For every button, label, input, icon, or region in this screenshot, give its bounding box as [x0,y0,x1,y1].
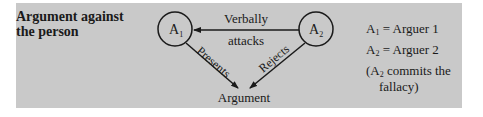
node-a2: A2 [299,12,333,46]
node-a1: A1 [158,12,192,46]
svg-text:Presents: Presents [194,44,234,81]
svg-text:Verbally: Verbally [224,11,269,26]
svg-text:A1: A1 [169,22,183,39]
legend-note: (A2 commits the fallacy) [366,63,451,95]
edge-presents: Presents [186,43,238,88]
svg-text:attacks: attacks [228,33,264,48]
legend: A1 = Arguer 1 A2 = Arguer 2 (A2 commits … [366,18,451,95]
legend-row-a2: A2 = Arguer 2 [366,39,451,60]
edge-rejects: Rejects [250,42,305,88]
node-argument: Argument [218,90,271,105]
legend-row-a1: A1 = Arguer 1 [366,18,451,39]
svg-text:A2: A2 [309,22,323,39]
